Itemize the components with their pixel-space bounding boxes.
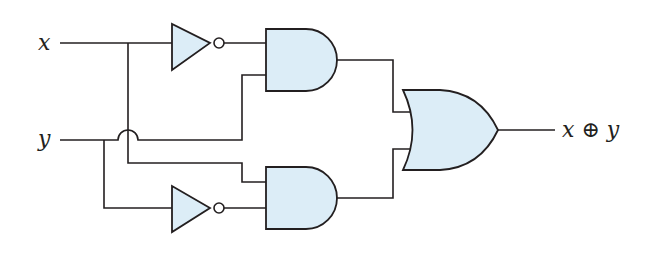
input-label-x: x — [38, 30, 51, 55]
not-gate-1 — [172, 24, 210, 70]
wire-y-to-and1 — [60, 75, 266, 140]
wire-and2-to-or — [336, 149, 410, 198]
not-gate-1-bubble — [214, 38, 224, 48]
output-label: x ⊕ y — [562, 117, 620, 142]
and-gate-1 — [266, 29, 337, 91]
xor-circuit-diagram: x y x ⊕ y — [0, 0, 667, 257]
or-gate — [403, 90, 498, 170]
input-label-y: y — [37, 126, 51, 151]
wire-x-to-and2 — [128, 43, 266, 182]
not-gate-2 — [172, 186, 210, 232]
not-gate-2-bubble — [214, 203, 224, 213]
wire-y-to-not2 — [104, 140, 172, 208]
and-gate-2 — [266, 167, 337, 229]
wire-and1-to-or — [336, 60, 410, 112]
